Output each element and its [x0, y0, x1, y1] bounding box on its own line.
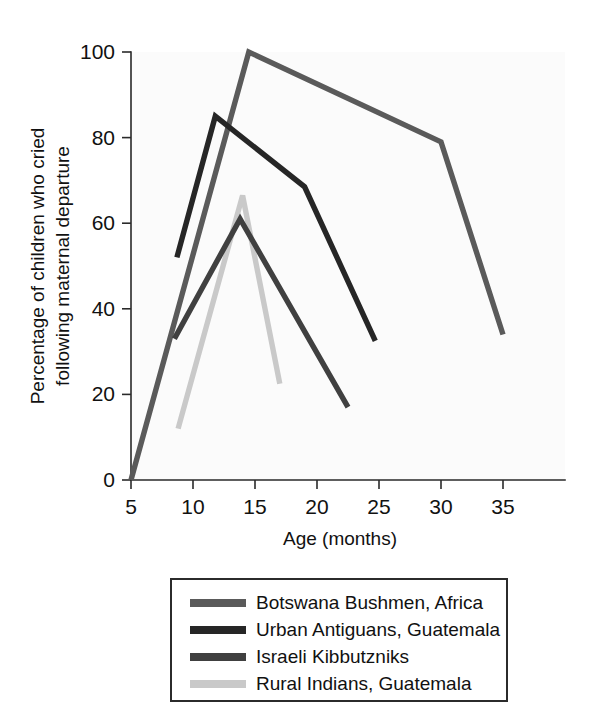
legend-item-label: Botswana Bushmen, Africa: [256, 593, 483, 612]
legend-swatch-icon: [190, 626, 246, 634]
x-axis-tick-label: 30: [429, 495, 452, 518]
y-axis-tick-label: 60: [92, 211, 115, 234]
legend-item-label: Israeli Kibbutzniks: [256, 647, 409, 666]
legend-item[interactable]: Urban Antiguans, Guatemala: [190, 616, 510, 643]
line-chart: 020406080100 5101520253035 Percentage of…: [0, 0, 598, 560]
legend-item[interactable]: Rural Indians, Guatemala: [190, 670, 510, 697]
y-axis-tick-label: 100: [80, 40, 115, 63]
chart-panel: 020406080100 5101520253035 Percentage of…: [0, 0, 598, 560]
plot-background: [131, 52, 565, 480]
legend-item-label: Urban Antiguans, Guatemala: [256, 620, 500, 639]
x-axis-ticks: [131, 480, 503, 489]
figure: 020406080100 5101520253035 Percentage of…: [0, 0, 598, 706]
legend-swatch-icon: [190, 680, 246, 688]
y-axis-tick-labels: 020406080100: [80, 40, 115, 491]
legend-list: Botswana Bushmen, AfricaUrban Antiguans,…: [190, 589, 510, 697]
x-axis-tick-label: 15: [243, 495, 266, 518]
legend-item-label: Rural Indians, Guatemala: [256, 674, 471, 693]
x-axis-tick-label: 20: [305, 495, 328, 518]
y-axis-tick-label: 0: [103, 468, 115, 491]
legend-item[interactable]: Israeli Kibbutzniks: [190, 643, 510, 670]
legend-swatch-icon: [190, 599, 246, 607]
x-axis-tick-label: 25: [367, 495, 390, 518]
x-axis-tick-label: 35: [491, 495, 514, 518]
y-axis-label-line2: following maternal departure: [52, 146, 73, 386]
y-axis-ticks: [122, 52, 131, 480]
y-axis-tick-label: 80: [92, 126, 115, 149]
y-axis-tick-label: 40: [92, 297, 115, 320]
x-axis-label: Age (months): [283, 528, 397, 549]
y-axis-tick-label: 20: [92, 382, 115, 405]
x-axis-tick-label: 10: [181, 495, 204, 518]
y-axis-label-line1: Percentage of children who cried: [27, 128, 48, 405]
legend-swatch-icon: [190, 653, 246, 661]
legend-item[interactable]: Botswana Bushmen, Africa: [190, 589, 510, 616]
x-axis-tick-labels: 5101520253035: [125, 495, 515, 518]
legend: Botswana Bushmen, AfricaUrban Antiguans,…: [170, 578, 508, 702]
x-axis-tick-label: 5: [125, 495, 137, 518]
